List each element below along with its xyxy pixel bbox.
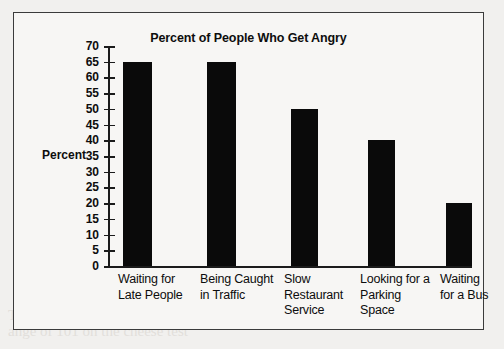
bar [446, 203, 472, 266]
y-tick-label: 60 [86, 71, 99, 83]
bar [207, 62, 236, 266]
x-axis-label-line: Being Caught [200, 272, 286, 288]
y-tick-label: 35 [86, 150, 99, 162]
x-axis-line [108, 266, 472, 268]
x-axis-label-line: Restaurant [284, 288, 364, 304]
bar-series [108, 46, 472, 266]
x-axis-label-line: for a Bus [440, 288, 504, 304]
x-axis-label-line: Slow [284, 272, 364, 288]
y-tick-label: 30 [86, 166, 99, 178]
y-tick-label: 40 [86, 134, 99, 146]
x-axis-label-line: Waiting for [118, 272, 202, 288]
x-axis-label-line: Parking [360, 288, 444, 304]
y-tick-label: 25 [86, 181, 99, 193]
x-axis-label-line: in Traffic [200, 288, 286, 304]
y-tick-label: 20 [86, 197, 99, 209]
x-axis-label-line: Waiting [440, 272, 504, 288]
y-axis-title: Percent [10, 148, 86, 162]
y-tick-label: 10 [86, 229, 99, 241]
x-axis-label: SlowRestaurantService [284, 272, 364, 319]
y-tick-label: 50 [86, 103, 99, 115]
y-tick-mark [104, 266, 115, 268]
x-axis-label: Being Caughtin Traffic [200, 272, 286, 303]
y-tick-label: 55 [86, 87, 99, 99]
plot-area: 7065605550454035302520151050 [108, 46, 472, 266]
y-tick-label: 65 [86, 56, 99, 68]
x-axis-label-line: Looking for a [360, 272, 444, 288]
y-tick-label: 45 [86, 119, 99, 131]
y-tick-label: 5 [92, 244, 99, 256]
chart-title: Percent of People Who Get Angry [14, 31, 483, 45]
bar [368, 140, 395, 266]
x-axis-label: Looking for aParkingSpace [360, 272, 444, 319]
y-tick-label: 0 [92, 260, 99, 272]
bar [291, 109, 318, 266]
x-axis-label: Waiting forLate People [118, 272, 202, 303]
y-tick-label: 15 [86, 213, 99, 225]
x-axis-label: Waitingfor a Bus [440, 272, 504, 303]
y-tick-label: 70 [86, 40, 99, 52]
x-axis-label-line: Late People [118, 288, 202, 304]
chart-figure-frame: Percent of People Who Get Angry Percent … [13, 12, 484, 330]
bar [123, 62, 152, 266]
x-axis-label-line: Space [360, 303, 444, 319]
x-axis-label-line: Service [284, 303, 364, 319]
x-axis-labels: Waiting forLate PeopleBeing Caughtin Tra… [108, 272, 480, 328]
